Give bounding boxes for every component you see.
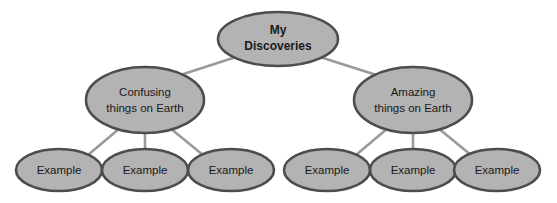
connector-left-branch-to-leaf-1	[88, 128, 120, 155]
branch-node-right-shape[interactable]	[354, 67, 472, 133]
leaf-node-right-3-label: Example	[475, 164, 520, 176]
leaf-node-right-1[interactable]: Example	[284, 149, 370, 191]
leaf-node-left-1-label: Example	[37, 164, 82, 176]
connector-right-branch-to-leaf-1	[356, 128, 388, 155]
root-node-label-line2: Discoveries	[244, 39, 312, 53]
leaf-node-left-3[interactable]: Example	[188, 149, 274, 191]
leaf-node-left-1[interactable]: Example	[16, 149, 102, 191]
branch-node-left-label-line1: Confusing	[119, 86, 171, 98]
leaf-node-right-2-label: Example	[391, 164, 436, 176]
connector-left-branch-to-leaf-3	[170, 128, 203, 155]
diagram-canvas: Example Example Example Example Example …	[0, 0, 557, 203]
leaf-node-left-2-label: Example	[123, 164, 168, 176]
branch-node-right[interactable]: Amazing things on Earth	[354, 67, 472, 133]
leaf-node-right-1-label: Example	[305, 164, 350, 176]
branch-node-left[interactable]: Confusing things on Earth	[86, 67, 204, 133]
leaf-node-right-3[interactable]: Example	[454, 149, 540, 191]
leaf-node-left-2[interactable]: Example	[102, 149, 188, 191]
branch-node-right-label-line2: things on Earth	[374, 102, 451, 114]
leaf-node-right-2[interactable]: Example	[370, 149, 456, 191]
root-node[interactable]: My Discoveries	[218, 12, 338, 66]
branch-node-right-label-line1: Amazing	[391, 86, 436, 98]
connector-right-branch-to-leaf-3	[438, 128, 471, 155]
concept-map-diagram: Example Example Example Example Example …	[0, 0, 557, 203]
root-node-label-line1: My	[270, 23, 287, 37]
branch-node-left-label-line2: things on Earth	[106, 102, 183, 114]
branch-node-left-shape[interactable]	[86, 67, 204, 133]
leaf-node-left-3-label: Example	[209, 164, 254, 176]
